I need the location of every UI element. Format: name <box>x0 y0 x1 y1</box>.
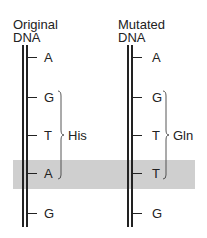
right-amino-acid: Gln <box>173 129 193 142</box>
codon-braces <box>0 0 207 238</box>
right-codon-brace-icon <box>163 91 169 179</box>
left-amino-acid: His <box>68 129 87 142</box>
left-codon-brace-icon <box>58 91 64 179</box>
